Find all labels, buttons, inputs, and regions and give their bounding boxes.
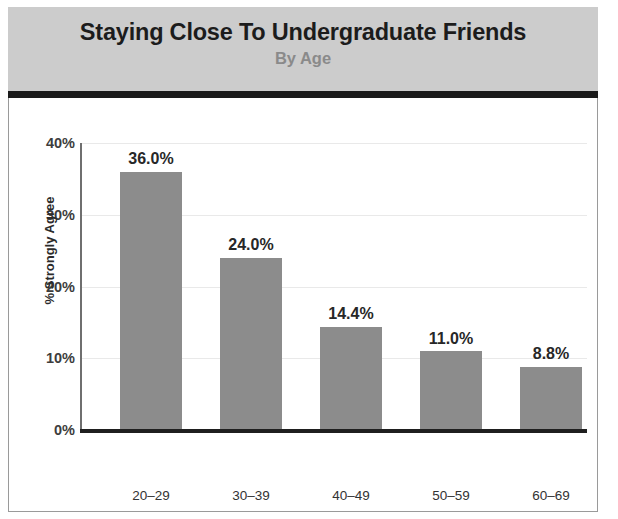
page-title: Staying Close To Undergraduate Friends: [8, 20, 598, 45]
x-label-2: 40–49: [301, 488, 401, 503]
chart-header-band: Staying Close To Undergraduate Friends B…: [8, 7, 598, 91]
x-label-4: 60–69: [501, 488, 601, 503]
x-label-1: 30–39: [201, 488, 301, 503]
y-tick-0: 0%: [15, 422, 75, 438]
y-axis-title: % Strongly Agree: [42, 181, 57, 321]
y-tick-10: 10%: [15, 350, 75, 366]
chart-figure: Staying Close To Undergraduate Friends B…: [0, 0, 618, 519]
chart-plot-frame: 36.0% 24.0% 14.4% 11.0% 8.8% 40: [8, 98, 598, 512]
x-axis-labels: 20–29 30–39 40–49 50–59 60–69: [81, 143, 587, 519]
x-label-0: 20–29: [101, 488, 201, 503]
y-tick-40: 40%: [15, 135, 75, 151]
header-divider: [8, 91, 598, 98]
chart-subtitle: By Age: [8, 50, 598, 67]
x-label-3: 50–59: [401, 488, 501, 503]
